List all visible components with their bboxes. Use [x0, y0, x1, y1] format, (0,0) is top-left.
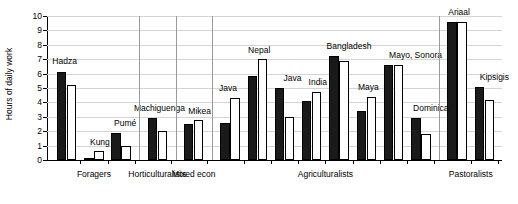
x-tick-mark — [108, 160, 109, 164]
bar-dark — [475, 87, 484, 160]
gridline — [47, 45, 502, 46]
group-label: Pastoralists — [449, 169, 493, 179]
bar-light — [312, 92, 321, 160]
x-tick-mark — [353, 160, 354, 164]
x-tick-mark — [471, 160, 472, 164]
y-tick-mark — [43, 59, 47, 60]
bar-light — [367, 97, 376, 160]
point-label: Dominica — [413, 104, 448, 113]
x-tick-mark — [271, 160, 272, 164]
bar-light — [258, 59, 267, 160]
bar-chart: Hours of daily work 012345678910 HadzaKu… — [0, 0, 518, 204]
y-tick-label: 6 — [37, 69, 42, 78]
bar-dark — [275, 88, 284, 160]
bar-dark — [329, 56, 338, 160]
group-separator — [176, 16, 177, 160]
y-tick-label: 8 — [37, 40, 42, 49]
bar-light — [485, 100, 494, 160]
x-tick-mark — [135, 160, 136, 164]
bar-dark — [84, 158, 93, 160]
x-tick-mark — [207, 160, 208, 164]
x-tick-mark — [325, 160, 326, 164]
x-tick-mark — [298, 160, 299, 164]
bar-light — [339, 61, 348, 160]
x-tick-mark — [407, 160, 408, 164]
bar-dark — [384, 65, 393, 160]
bar-light — [158, 131, 167, 160]
point-label: Maya — [358, 83, 379, 92]
group-label: Mixed econ — [172, 169, 215, 179]
x-tick-mark — [244, 160, 245, 164]
x-tick-mark — [434, 160, 435, 164]
gridline — [47, 16, 502, 17]
y-tick-label: 7 — [37, 55, 42, 64]
bar-light — [194, 120, 203, 160]
point-label: Mayo, Sonora — [389, 51, 442, 60]
y-tick-mark — [43, 45, 47, 46]
bar-light — [394, 65, 403, 160]
bar-dark — [148, 118, 157, 160]
group-separator — [439, 16, 440, 160]
plot-area: 012345678910 HadzaKungPuméMachiguengaMik… — [47, 16, 502, 160]
point-label: Java — [219, 84, 237, 93]
point-label: Nepal — [248, 46, 270, 55]
group-label: Foragers — [77, 169, 111, 179]
point-label: Java — [284, 74, 302, 83]
y-tick-mark — [43, 74, 47, 75]
point-label: Kipsigis — [480, 73, 509, 82]
y-tick-mark — [43, 131, 47, 132]
y-tick-label: 4 — [37, 98, 42, 107]
y-tick-mark — [43, 146, 47, 147]
group-separator — [139, 16, 140, 160]
bar-dark — [111, 133, 120, 160]
bar-light — [121, 146, 130, 160]
point-label: Kung — [90, 138, 110, 147]
bar-light — [421, 134, 430, 160]
bar-dark — [220, 123, 229, 160]
bar-light — [94, 151, 103, 160]
y-tick-label: 10 — [33, 12, 42, 21]
y-tick-mark — [43, 102, 47, 103]
y-tick-mark — [43, 30, 47, 31]
y-tick-label: 9 — [37, 26, 42, 35]
point-label: Ariaal — [448, 8, 470, 17]
y-tick-label: 0 — [37, 156, 42, 165]
point-label: Pumé — [114, 119, 136, 128]
bar-dark — [57, 72, 66, 160]
point-label: Mikea — [188, 107, 211, 116]
point-label: Machiguenga — [134, 104, 185, 113]
bar-dark — [447, 22, 456, 160]
point-label: Bangladesh — [327, 42, 372, 51]
y-tick-mark — [43, 16, 47, 17]
x-tick-mark — [498, 160, 499, 164]
y-tick-mark — [43, 88, 47, 89]
bar-dark — [357, 111, 366, 160]
x-tick-mark — [380, 160, 381, 164]
y-tick-label: 3 — [37, 112, 42, 121]
gridline — [47, 30, 502, 31]
bar-dark — [184, 124, 193, 160]
bar-dark — [411, 118, 420, 160]
bar-dark — [302, 101, 311, 160]
point-label: India — [309, 78, 327, 87]
bar-light — [285, 117, 294, 160]
bar-light — [230, 98, 239, 160]
y-axis-title: Hours of daily work — [0, 0, 18, 186]
group-separator — [212, 16, 213, 160]
y-tick-label: 5 — [37, 84, 42, 93]
bar-light — [67, 85, 76, 160]
y-tick-label: 2 — [37, 127, 42, 136]
group-label: Agriculturalists — [298, 169, 353, 179]
y-tick-mark — [43, 117, 47, 118]
point-label: Hadza — [52, 57, 77, 66]
bar-dark — [248, 76, 257, 160]
x-tick-mark — [171, 160, 172, 164]
x-tick-mark — [80, 160, 81, 164]
bar-light — [457, 22, 466, 160]
y-tick-label: 1 — [37, 141, 42, 150]
gridline — [47, 74, 502, 75]
y-tick-mark — [43, 160, 47, 161]
